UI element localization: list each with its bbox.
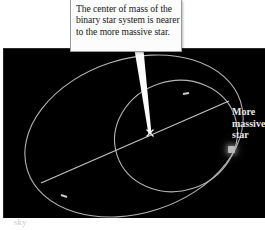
binary-star-figure: More massive star Less massive star The … bbox=[0, 0, 265, 230]
more-massive-star-marker bbox=[228, 146, 235, 153]
callout-text: The center of mass of the binary star sy… bbox=[76, 3, 180, 37]
caption-text: sky bbox=[14, 219, 27, 227]
callout-box: The center of mass of the binary star sy… bbox=[70, 0, 182, 52]
star-connecting-line bbox=[41, 101, 229, 183]
more-massive-star-orbit bbox=[100, 65, 252, 208]
sky-panel: More massive star Less massive star bbox=[3, 48, 265, 218]
orbit-tick-upper-right bbox=[183, 93, 189, 94]
more-massive-star-label: More massive star bbox=[232, 106, 265, 141]
orbit-diagram-svg bbox=[3, 48, 265, 218]
less-massive-star-orbit bbox=[4, 48, 265, 218]
caption-clip: sky bbox=[3, 219, 203, 230]
orbit-tick-lower-left bbox=[61, 195, 67, 197]
